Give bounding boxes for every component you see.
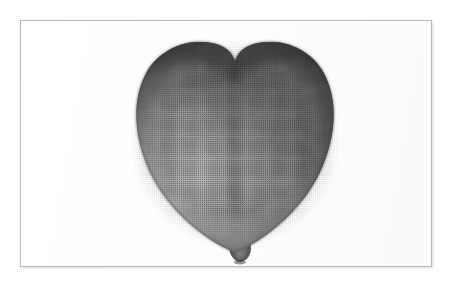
balloon-body <box>116 28 354 267</box>
photo-frame <box>20 20 432 267</box>
heart-balloon <box>116 28 354 267</box>
screenshot-root <box>0 0 450 282</box>
photo-stage <box>21 21 431 266</box>
heart-balloon-graphic <box>116 28 354 267</box>
